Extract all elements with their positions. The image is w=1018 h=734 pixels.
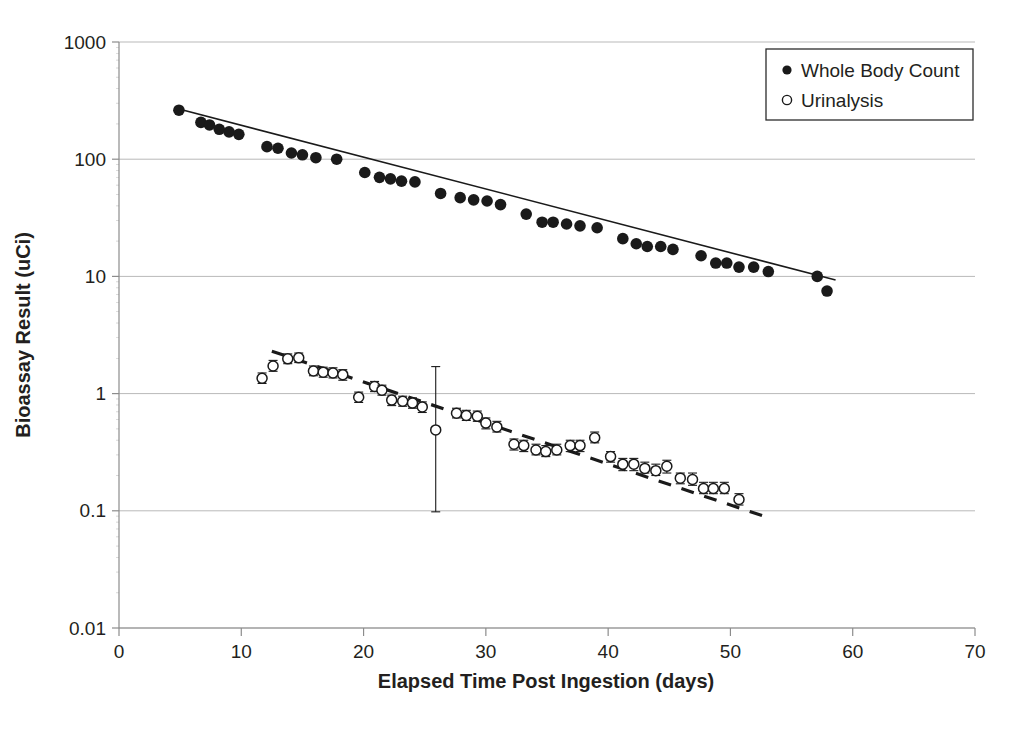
data-point-whole-body-count bbox=[536, 216, 548, 228]
data-point-urinalysis bbox=[407, 398, 417, 408]
data-point-whole-body-count bbox=[655, 241, 667, 253]
y-tick-label: 10 bbox=[85, 266, 106, 287]
x-tick-label: 20 bbox=[353, 641, 374, 662]
data-point-whole-body-count bbox=[495, 199, 507, 211]
data-point-urinalysis bbox=[318, 367, 328, 377]
data-point-urinalysis bbox=[308, 366, 318, 376]
data-point-whole-body-count bbox=[641, 241, 653, 253]
data-point-whole-body-count bbox=[721, 257, 733, 269]
data-point-urinalysis bbox=[640, 463, 650, 473]
data-point-whole-body-count bbox=[617, 233, 629, 245]
data-point-urinalysis bbox=[472, 411, 482, 421]
data-point-urinalysis bbox=[552, 445, 562, 455]
x-tick-label: 70 bbox=[964, 641, 985, 662]
x-tick-label: 60 bbox=[842, 641, 863, 662]
data-point-whole-body-count bbox=[396, 175, 408, 187]
data-point-urinalysis bbox=[328, 368, 338, 378]
data-point-whole-body-count bbox=[435, 188, 447, 200]
data-point-whole-body-count bbox=[213, 123, 225, 135]
legend-marker-open-circle-icon bbox=[782, 95, 791, 104]
data-point-urinalysis bbox=[452, 408, 462, 418]
data-point-urinalysis bbox=[675, 473, 685, 483]
data-point-whole-body-count bbox=[547, 216, 559, 228]
data-point-whole-body-count bbox=[173, 104, 185, 116]
x-axis-title: Elapsed Time Post Ingestion (days) bbox=[378, 670, 714, 692]
data-point-urinalysis bbox=[629, 459, 639, 469]
legend-label: Whole Body Count bbox=[801, 60, 960, 81]
data-point-whole-body-count bbox=[297, 149, 309, 161]
data-point-urinalysis bbox=[519, 441, 529, 451]
data-point-urinalysis bbox=[354, 392, 364, 402]
x-tick-label: 40 bbox=[598, 641, 619, 662]
data-point-urinalysis bbox=[294, 353, 304, 363]
data-point-whole-body-count bbox=[374, 172, 386, 184]
y-tick-label: 1000 bbox=[64, 32, 106, 53]
data-point-whole-body-count bbox=[630, 238, 642, 250]
data-point-whole-body-count bbox=[286, 147, 298, 159]
y-axis-title: Bioassay Result (uCi) bbox=[12, 232, 34, 438]
data-point-whole-body-count bbox=[811, 271, 823, 283]
data-point-whole-body-count bbox=[574, 220, 586, 232]
y-tick-label: 0.01 bbox=[69, 618, 106, 639]
data-point-urinalysis bbox=[461, 411, 471, 421]
data-point-urinalysis bbox=[492, 422, 502, 432]
data-point-whole-body-count bbox=[763, 266, 775, 278]
data-point-whole-body-count bbox=[695, 250, 707, 262]
data-point-urinalysis bbox=[708, 483, 718, 493]
y-tick-label: 0.1 bbox=[80, 500, 106, 521]
x-tick-label: 10 bbox=[231, 641, 252, 662]
data-point-urinalysis bbox=[481, 418, 491, 428]
data-point-urinalysis bbox=[688, 474, 698, 484]
data-point-whole-body-count bbox=[409, 176, 421, 188]
data-point-urinalysis bbox=[662, 461, 672, 471]
data-point-whole-body-count bbox=[359, 167, 371, 179]
data-point-whole-body-count bbox=[591, 222, 603, 234]
data-point-whole-body-count bbox=[454, 192, 466, 204]
data-point-whole-body-count bbox=[233, 129, 245, 141]
data-point-urinalysis bbox=[541, 447, 551, 457]
y-tick-label: 1 bbox=[95, 383, 106, 404]
data-point-urinalysis bbox=[606, 452, 616, 462]
data-point-whole-body-count bbox=[468, 194, 480, 206]
bioassay-decay-chart-figure: 010203040506070 0.010.11101001000 Whole … bbox=[0, 0, 1018, 734]
data-point-urinalysis bbox=[590, 433, 600, 443]
x-tick-label: 30 bbox=[475, 641, 496, 662]
data-point-urinalysis bbox=[509, 439, 519, 449]
data-point-whole-body-count bbox=[261, 141, 273, 153]
data-point-urinalysis bbox=[575, 441, 585, 451]
legend[interactable]: Whole Body CountUrinalysis bbox=[766, 49, 973, 120]
data-point-urinalysis bbox=[398, 396, 408, 406]
data-point-whole-body-count bbox=[667, 244, 679, 256]
data-point-whole-body-count bbox=[223, 126, 235, 138]
data-point-urinalysis bbox=[531, 445, 541, 455]
legend-marker-filled-circle-icon bbox=[782, 65, 791, 74]
data-point-whole-body-count bbox=[310, 152, 322, 164]
data-point-urinalysis bbox=[268, 361, 278, 371]
data-point-urinalysis bbox=[377, 385, 387, 395]
data-point-urinalysis bbox=[699, 483, 709, 493]
data-point-whole-body-count bbox=[481, 195, 493, 207]
data-point-urinalysis bbox=[618, 459, 628, 469]
data-point-urinalysis bbox=[734, 494, 744, 504]
data-point-urinalysis bbox=[417, 402, 427, 412]
data-point-whole-body-count bbox=[710, 257, 722, 269]
chart-canvas: 010203040506070 0.010.11101001000 Whole … bbox=[0, 0, 1018, 734]
data-point-whole-body-count bbox=[561, 218, 573, 230]
data-point-urinalysis bbox=[431, 425, 441, 435]
legend-label: Urinalysis bbox=[801, 90, 883, 111]
data-point-urinalysis bbox=[283, 354, 293, 364]
data-point-whole-body-count bbox=[821, 285, 833, 297]
data-point-whole-body-count bbox=[733, 261, 745, 273]
data-point-urinalysis bbox=[719, 483, 729, 493]
data-point-urinalysis bbox=[565, 441, 575, 451]
data-point-urinalysis bbox=[651, 466, 661, 476]
data-point-whole-body-count bbox=[272, 142, 284, 154]
x-tick-label: 0 bbox=[114, 641, 125, 662]
data-point-urinalysis bbox=[257, 373, 267, 383]
y-tick-label: 100 bbox=[74, 149, 106, 170]
x-tick-label: 50 bbox=[720, 641, 741, 662]
data-point-whole-body-count bbox=[385, 173, 397, 185]
data-point-whole-body-count bbox=[520, 208, 532, 220]
data-point-urinalysis bbox=[338, 370, 348, 380]
data-point-urinalysis bbox=[387, 395, 397, 405]
